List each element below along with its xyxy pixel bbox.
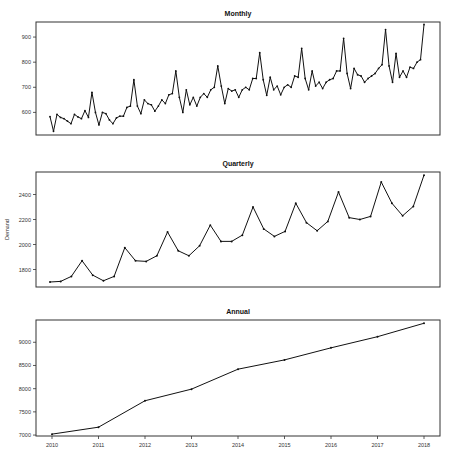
y-tick-label: 2400: [19, 192, 31, 198]
data-point: [185, 89, 187, 91]
data-point: [134, 260, 136, 262]
data-point: [220, 85, 222, 87]
y-tick-label: 7000: [19, 432, 31, 438]
annual-chart: Annual7000750080008500900020102011201220…: [0, 300, 451, 468]
data-point: [196, 105, 198, 107]
data-point: [171, 93, 173, 95]
data-point: [102, 112, 104, 114]
data-point: [74, 114, 76, 116]
x-tick-label: 2016: [325, 442, 337, 448]
x-tick-label: 2013: [185, 442, 197, 448]
data-point: [413, 68, 415, 70]
data-point: [123, 115, 125, 117]
data-point: [199, 96, 201, 98]
data-point: [269, 76, 271, 78]
y-tick-label: 8500: [19, 362, 31, 368]
data-point: [213, 86, 215, 88]
data-point: [348, 217, 350, 219]
data-point: [318, 81, 320, 83]
data-point: [262, 79, 264, 81]
data-point: [63, 118, 65, 120]
data-point: [305, 222, 307, 224]
data-point: [161, 99, 163, 101]
data-point: [210, 89, 212, 91]
data-point: [378, 68, 380, 70]
data-point: [157, 105, 159, 107]
data-point: [95, 112, 97, 114]
data-point: [234, 89, 236, 91]
data-point: [343, 37, 345, 39]
data-point: [81, 118, 83, 120]
data-point: [252, 78, 254, 80]
data-point: [391, 202, 393, 204]
data-point: [399, 76, 401, 78]
data-point: [388, 65, 390, 67]
data-point: [367, 78, 369, 80]
data-point: [273, 89, 275, 91]
monthly-panel: Monthly600700800900: [0, 0, 451, 150]
data-point: [49, 281, 51, 283]
data-point: [284, 359, 286, 361]
x-tick-label: 2015: [278, 442, 290, 448]
data-line: [52, 323, 424, 434]
data-point: [105, 113, 107, 115]
data-point: [370, 215, 372, 217]
data-point: [56, 114, 58, 116]
data-point: [175, 70, 177, 72]
data-point: [273, 235, 275, 237]
data-point: [91, 91, 93, 93]
data-point: [98, 124, 100, 126]
plot-frame: [36, 320, 440, 436]
data-point: [266, 94, 268, 96]
data-point: [192, 96, 194, 98]
data-point: [315, 85, 317, 87]
y-tick-label: 2000: [19, 242, 31, 248]
data-point: [409, 66, 411, 68]
data-point: [252, 206, 254, 208]
data-point: [126, 106, 128, 108]
data-point: [102, 280, 104, 282]
y-tick-label: 600: [22, 109, 31, 115]
data-point: [98, 426, 100, 428]
data-point: [231, 90, 233, 92]
data-point: [329, 79, 331, 81]
data-point: [150, 104, 152, 106]
data-point: [392, 81, 394, 83]
data-point: [357, 74, 359, 76]
data-point: [322, 88, 324, 90]
data-point: [297, 76, 299, 78]
data-point: [346, 73, 348, 75]
data-point: [227, 88, 229, 90]
data-point: [283, 86, 285, 88]
x-tick-label: 2014: [232, 442, 244, 448]
data-point: [416, 61, 418, 63]
chart-title: Quarterly: [222, 160, 253, 168]
chart-title: Monthly: [225, 10, 252, 18]
data-point: [353, 68, 355, 70]
data-point: [92, 274, 94, 276]
data-point: [49, 116, 51, 118]
data-point: [116, 117, 118, 119]
data-point: [84, 110, 86, 112]
data-point: [143, 99, 145, 101]
data-point: [301, 47, 303, 49]
data-point: [385, 29, 387, 31]
data-point: [364, 81, 366, 83]
data-point: [220, 240, 222, 242]
data-point: [237, 368, 239, 370]
data-point: [203, 93, 205, 95]
data-point: [259, 52, 261, 54]
data-point: [255, 78, 257, 80]
data-point: [129, 105, 131, 107]
data-point: [295, 202, 297, 204]
data-point: [188, 255, 190, 257]
data-point: [178, 96, 180, 98]
data-point: [238, 96, 240, 98]
data-point: [133, 79, 135, 81]
x-tick-label: 2010: [46, 442, 58, 448]
data-point: [325, 81, 327, 83]
data-point: [371, 75, 373, 77]
y-tick-label: 8000: [19, 386, 31, 392]
data-point: [124, 247, 126, 249]
data-point: [177, 250, 179, 252]
